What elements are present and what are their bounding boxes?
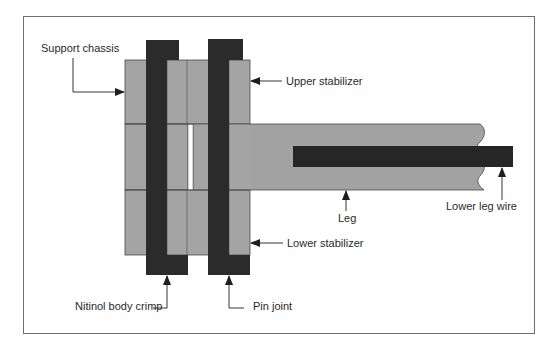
label-upper-stabilizer: Upper stabilizer bbox=[286, 76, 362, 87]
label-leg: Leg bbox=[338, 213, 356, 224]
label-lower-stabilizer: Lower stabilizer bbox=[287, 238, 363, 249]
label-pin-joint: Pin joint bbox=[253, 301, 292, 312]
label-nitinol-body-crimp: Nitinol body crimp bbox=[75, 301, 162, 312]
label-lower-leg-wire: Lower leg wire bbox=[446, 201, 517, 212]
support-chassis bbox=[125, 60, 250, 255]
lower-leg-wire bbox=[293, 146, 513, 167]
chassis-gap bbox=[188, 125, 193, 190]
label-support-chassis: Support chassis bbox=[41, 43, 119, 54]
